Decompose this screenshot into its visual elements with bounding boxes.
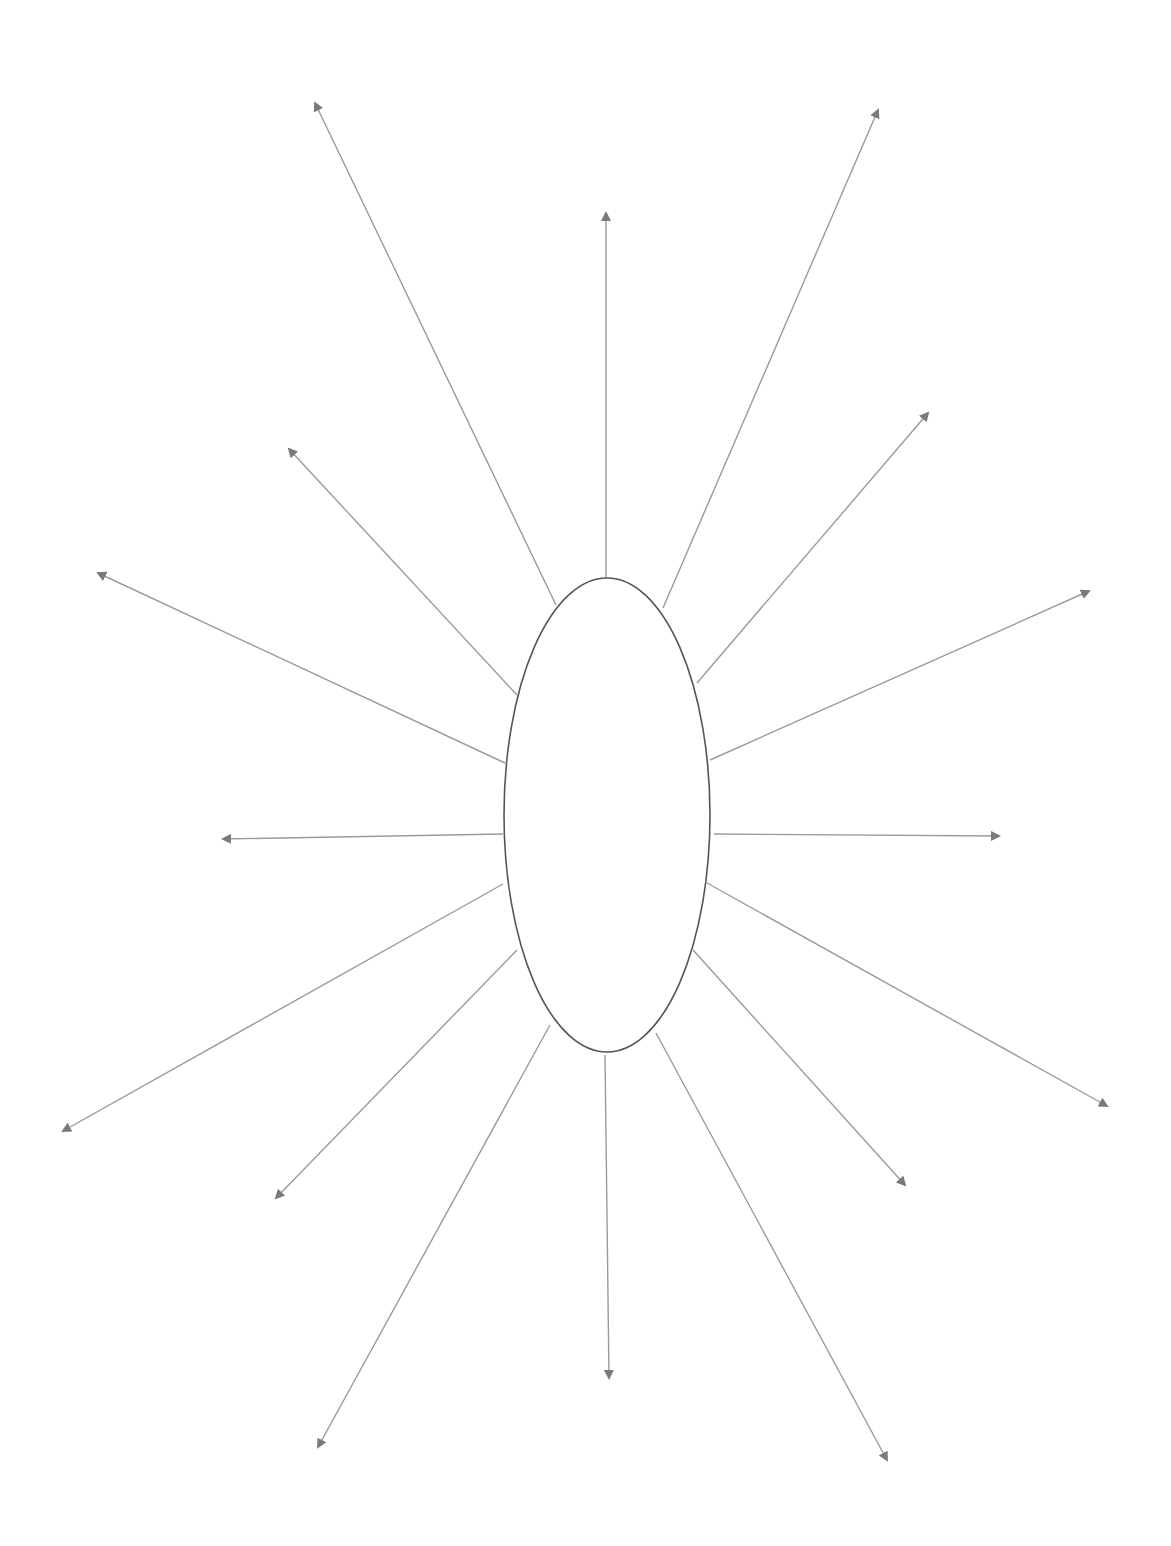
arrow-9 bbox=[656, 1033, 887, 1460]
arrow-7 bbox=[707, 883, 1107, 1106]
arrow-15 bbox=[98, 573, 505, 763]
arrow-8 bbox=[693, 950, 905, 1185]
arrow-16 bbox=[289, 449, 517, 695]
arrow-13 bbox=[63, 884, 503, 1131]
arrow-6 bbox=[714, 834, 999, 836]
radial-diagram bbox=[0, 0, 1171, 1546]
arrow-4 bbox=[697, 413, 928, 683]
arrow-1 bbox=[315, 103, 556, 605]
arrow-11 bbox=[318, 1025, 550, 1447]
arrow-3 bbox=[663, 110, 878, 608]
arrow-12 bbox=[276, 950, 517, 1198]
arrow-5 bbox=[710, 591, 1089, 760]
arrow-14 bbox=[223, 834, 503, 839]
center-ellipse bbox=[504, 578, 710, 1052]
arrow-10 bbox=[605, 1055, 609, 1378]
